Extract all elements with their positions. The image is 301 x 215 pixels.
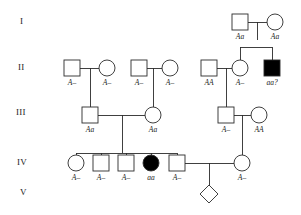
genotype-label-IV-2: A–	[97, 173, 105, 182]
genotype-label-IV-1: A–	[72, 173, 80, 182]
individual-III-4-circle-symbol[interactable]	[251, 107, 267, 123]
genotype-label-IV-4: aa	[147, 173, 155, 182]
genotype-label-II-7: aa?	[266, 78, 277, 87]
individual-IV-5-square-symbol[interactable]	[169, 155, 185, 171]
individual-II-6-circle-symbol[interactable]	[232, 60, 248, 76]
individual-IV-1-circle-symbol[interactable]	[68, 155, 84, 171]
genotype-label-III-1: Aa	[86, 125, 94, 134]
individual-II-3-square-symbol[interactable]	[131, 60, 147, 76]
genotype-label-III-2: Aa	[149, 125, 157, 134]
genotype-label-II-3: A–	[135, 78, 143, 87]
individual-IV-2-square-symbol[interactable]	[93, 155, 109, 171]
individual-II-7-square-symbol[interactable]	[264, 60, 280, 76]
individual-I-2-circle-symbol[interactable]	[267, 14, 283, 30]
individual-II-5-square-symbol[interactable]	[201, 60, 217, 76]
genotype-label-I-2: Aa	[271, 32, 279, 41]
individual-II-4-circle-symbol[interactable]	[162, 60, 178, 76]
generation-label-III: III	[16, 107, 26, 117]
individual-I-1-square-symbol[interactable]	[232, 14, 248, 30]
genotype-label-I-1: Aa	[236, 32, 244, 41]
genotype-label-IV-3: A–	[122, 173, 130, 182]
pedigree-diagram	[0, 0, 301, 215]
genotype-label-III-4: AA	[254, 125, 263, 134]
individual-III-3-square-symbol[interactable]	[218, 107, 234, 123]
individual-III-2-circle-symbol[interactable]	[145, 107, 161, 123]
pedigree-chart: IIIIIIIVV AaAaA–A–A–A–AAA–aa?AaAaA–AAA–A…	[0, 0, 301, 215]
genotype-label-III-3: A–	[222, 125, 230, 134]
individual-II-1-square-symbol[interactable]	[64, 60, 80, 76]
genotype-label-II-2: A–	[103, 78, 111, 87]
individual-III-1-square-symbol[interactable]	[82, 107, 98, 123]
individual-IV-4-circle-symbol[interactable]	[143, 155, 159, 171]
individual-IV-3-square-symbol[interactable]	[118, 155, 134, 171]
genotype-label-II-4: A–	[166, 78, 174, 87]
genotype-label-II-6: A–	[236, 78, 244, 87]
generation-label-IV: IV	[17, 157, 27, 167]
generation-label-II: II	[18, 62, 25, 72]
individual-IV-6-circle-symbol[interactable]	[234, 155, 250, 171]
individual-II-2-circle-symbol[interactable]	[99, 60, 115, 76]
generation-label-I: I	[20, 16, 23, 26]
genotype-label-IV-5: A–	[173, 173, 181, 182]
generation-label-V: V	[20, 187, 27, 197]
genotype-label-II-5: AA	[204, 78, 213, 87]
individual-V-1-diamond-symbol[interactable]	[200, 185, 218, 203]
genotype-label-IV-6: A–	[238, 173, 246, 182]
genotype-label-II-1: A–	[68, 78, 76, 87]
